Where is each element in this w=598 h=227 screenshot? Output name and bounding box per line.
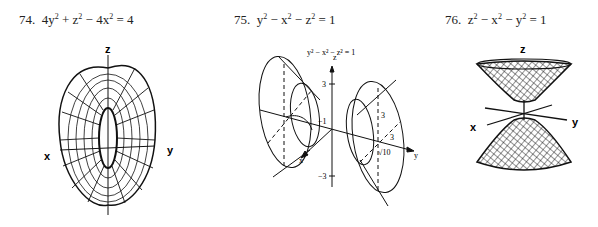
y-axis-label: y [167, 144, 174, 156]
trace-x-3: 3 [390, 133, 394, 142]
problem-74: 74. 4y2 + z2 − 4x2 = 4 [0, 0, 200, 227]
trace-z-3: 3 [381, 111, 385, 120]
y-axis-label: y [572, 116, 579, 128]
y-tick-neg1: −1 [318, 117, 327, 126]
z-axis-label: z [333, 53, 337, 62]
x-axis-label: x [470, 121, 477, 133]
problem-76: 76. z2 − x2 − y2 = 1 z x y [420, 0, 598, 227]
hyperboloid-two-sheets-vertical-figure: z x y [420, 0, 598, 227]
hyperboloid-one-sheet-figure: z x y [0, 0, 200, 227]
x-axis-label: x [299, 156, 303, 165]
hyperboloid-two-sheets-figure: y² − x² − z² = 1 [200, 0, 420, 227]
y-tick-sqrt10: √10 [378, 148, 390, 157]
z-tick-neg3: −3 [318, 172, 327, 181]
z-axis-label: z [105, 43, 111, 55]
x-axis-label: x [44, 150, 51, 162]
y-axis-label: y [414, 151, 418, 160]
figure-caption: y² − x² − z² = 1 [307, 48, 355, 57]
z-tick-3: 3 [322, 80, 326, 89]
problem-75: 75. y2 − x2 − z2 = 1 y² − x² − z² = 1 [200, 0, 420, 227]
z-axis-label: z [520, 43, 526, 55]
